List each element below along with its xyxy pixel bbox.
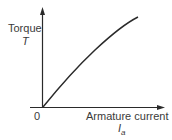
y-axis-symbol: T bbox=[22, 35, 29, 47]
x-axis-symbol-subscript: a bbox=[121, 128, 125, 137]
y-axis-arrow-icon bbox=[40, 7, 45, 15]
x-axis-label: Armature current bbox=[86, 110, 169, 122]
torque-curve bbox=[43, 17, 138, 107]
y-axis-label: Torque bbox=[8, 22, 42, 34]
x-axis-symbol: Ia bbox=[118, 122, 126, 139]
origin-label: 0 bbox=[34, 110, 40, 122]
